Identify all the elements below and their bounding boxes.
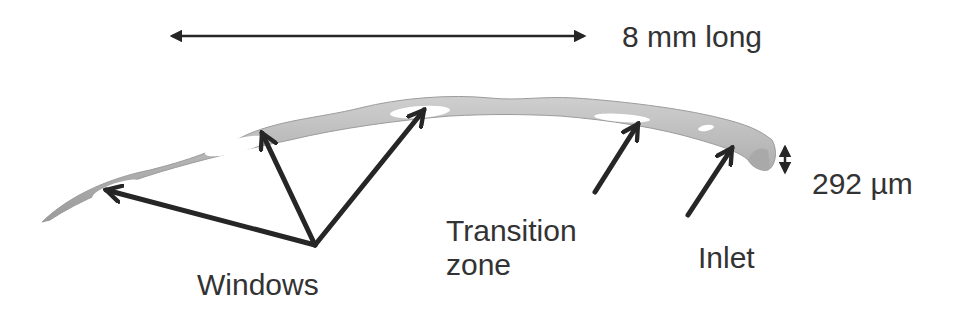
transition-zone-label-line2: zone bbox=[446, 248, 577, 282]
length-label: 8 mm long bbox=[622, 20, 762, 54]
transition-zone-label-line1: Transition bbox=[446, 214, 577, 248]
inlet-label: Inlet bbox=[698, 241, 755, 275]
transition-pointer-arrow bbox=[595, 124, 638, 192]
width-label: 292 µm bbox=[812, 167, 913, 201]
inlet-pointer-arrow bbox=[688, 148, 732, 215]
transition-zone-label: Transition zone bbox=[446, 214, 577, 282]
windows-label: Windows bbox=[197, 268, 319, 302]
